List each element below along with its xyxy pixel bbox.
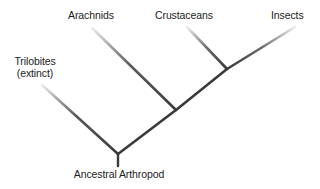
cladogram-svg	[0, 0, 320, 189]
taxon-label-insects: Insects	[271, 10, 304, 22]
taxon-label-trilobites-note: (extinct)	[4, 68, 66, 80]
phylogenetic-tree-figure: Trilobites (extinct) Arachnids Crustacea…	[0, 0, 320, 189]
root-label-ancestral-arthropod: Ancestral Arthropod	[60, 169, 178, 181]
branch-arachnids	[92, 28, 176, 110]
taxon-label-trilobites-name: Trilobites	[14, 55, 55, 67]
taxon-label-trilobites: Trilobites (extinct)	[4, 56, 66, 79]
branch-insects	[227, 27, 295, 69]
branch-trilobites	[42, 85, 118, 154]
taxon-label-arachnids: Arachnids	[68, 10, 114, 22]
taxon-label-crustaceans: Crustaceans	[155, 10, 213, 22]
branch-trunk	[118, 69, 227, 154]
branch-crustaceans	[187, 27, 227, 69]
